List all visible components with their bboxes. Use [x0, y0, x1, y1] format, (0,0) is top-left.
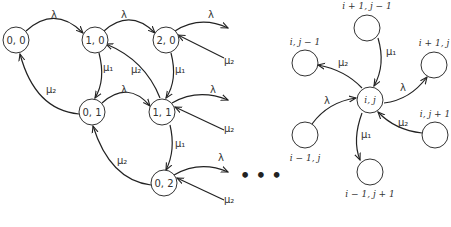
- svg-text:1, 1: 1, 1: [152, 107, 171, 118]
- svg-text:0, 0: 0, 0: [6, 35, 25, 46]
- label-mu2: μ₂: [117, 155, 127, 166]
- label-lambda: λ: [121, 84, 127, 95]
- label-mu1: μ₁: [361, 129, 371, 140]
- state-node-top: i + 1, j − 1: [342, 1, 391, 41]
- label-mu1: μ₁: [175, 138, 185, 149]
- svg-text:i, j + 1: i, j + 1: [420, 109, 450, 119]
- label-mu2: μ₂: [224, 123, 234, 134]
- svg-text:2, 0: 2, 0: [156, 35, 175, 46]
- svg-text:i − 1, j: i − 1, j: [290, 153, 321, 163]
- label-mu2: μ₂: [338, 57, 348, 68]
- label-lambda: λ: [218, 152, 224, 163]
- state-node-bottom: i − 1, j + 1: [345, 159, 394, 199]
- svg-text:i + 1, j − 1: i + 1, j − 1: [342, 1, 391, 11]
- label-mu2: μ₂: [131, 64, 141, 75]
- svg-text:0, 1: 0, 1: [82, 107, 101, 118]
- left-nodes: 0, 0 1, 0 2, 0 0, 1 1, 1 0, 2: [3, 27, 179, 196]
- state-node-lower-left: i − 1, j: [290, 122, 321, 163]
- label-lambda: λ: [210, 84, 216, 95]
- state-node-lower-right: i, j + 1: [420, 109, 450, 148]
- label-lambda: λ: [324, 95, 330, 106]
- svg-text:i + 1, j: i + 1, j: [419, 38, 450, 48]
- label-mu2: μ₂: [224, 194, 234, 205]
- svg-text:i, j: i, j: [364, 95, 376, 105]
- state-node-right: i + 1, j: [419, 38, 450, 78]
- markov-chain-diagram: λ λ λ μ₂ μ₁ μ₂ μ₁ μ₂ λ λ μ₂ μ₁ μ₂ λ μ₂ •…: [0, 0, 451, 227]
- state-node-center: i, j: [357, 87, 383, 113]
- state-node-left: i, j − 1: [290, 37, 320, 76]
- left-edges: [20, 18, 228, 200]
- right-nodes: i, j i + 1, j − 1 i, j − 1 i + 1, j i − …: [290, 1, 450, 199]
- label-lambda: λ: [121, 9, 127, 20]
- label-lambda: λ: [208, 9, 214, 20]
- label-mu1: μ₁: [386, 46, 396, 57]
- continuation-ellipsis: • • •: [240, 166, 282, 185]
- label-mu2: μ₂: [46, 84, 56, 95]
- label-mu2: μ₂: [224, 55, 234, 66]
- svg-text:0, 2: 0, 2: [154, 178, 173, 189]
- label-lambda: λ: [51, 9, 57, 20]
- state-node-2-0: 2, 0: [153, 27, 179, 53]
- svg-text:1, 0: 1, 0: [85, 35, 104, 46]
- label-mu2: μ₂: [398, 117, 408, 128]
- label-mu1: μ₁: [175, 64, 185, 75]
- label-mu1: μ₁: [103, 62, 113, 73]
- state-node-0-0: 0, 0: [3, 27, 29, 53]
- state-node-1-0: 1, 0: [82, 27, 108, 53]
- svg-text:i, j − 1: i, j − 1: [290, 37, 320, 47]
- label-lambda: λ: [400, 82, 406, 93]
- state-node-1-1: 1, 1: [149, 99, 175, 125]
- state-node-0-2: 0, 2: [151, 170, 177, 196]
- svg-text:i − 1, j + 1: i − 1, j + 1: [345, 189, 394, 199]
- state-node-0-1: 0, 1: [79, 99, 105, 125]
